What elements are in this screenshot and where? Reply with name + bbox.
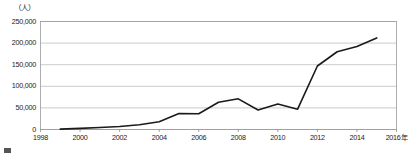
line-chart-figure: （人） 050,000100,000150,000200,000250,000 … xyxy=(0,0,415,153)
caption-marker-icon xyxy=(4,148,11,153)
x-tick-label: 2012 xyxy=(297,134,337,141)
x-tick-label: 2006 xyxy=(179,134,219,141)
plot-border xyxy=(41,22,397,130)
y-tick-label: 100,000 xyxy=(0,82,36,89)
y-tick-label: 200,000 xyxy=(0,39,36,46)
x-tick-label: 2008 xyxy=(218,134,258,141)
x-tick-label: 2016年 xyxy=(377,134,415,141)
chart-plot-area xyxy=(0,0,415,153)
x-tick-label: 2000 xyxy=(60,134,100,141)
y-tick-label: 0 xyxy=(0,126,36,133)
y-tick-label: 50,000 xyxy=(0,104,36,111)
x-tick-label: 1998 xyxy=(21,134,61,141)
y-tick-label: 250,000 xyxy=(0,18,36,25)
x-tick-label: 2004 xyxy=(139,134,179,141)
y-tick-label: 150,000 xyxy=(0,61,36,68)
x-tick-label: 2014 xyxy=(337,134,377,141)
x-tick-label: 2002 xyxy=(100,134,140,141)
x-tick-label: 2010 xyxy=(258,134,298,141)
gridlines-group xyxy=(41,22,397,130)
figure-caption xyxy=(4,146,14,153)
data-series-line xyxy=(60,38,376,129)
